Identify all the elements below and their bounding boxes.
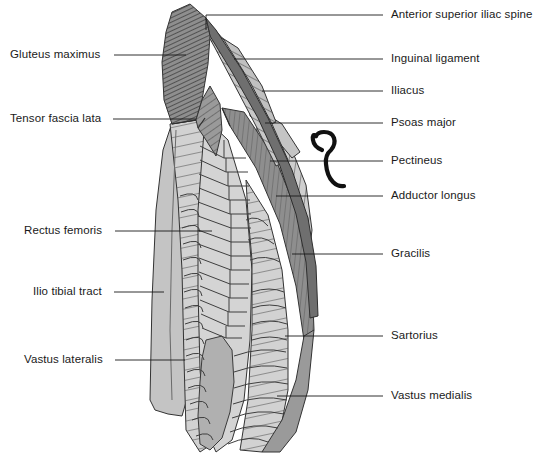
label-anterior-superior-iliac-spine: Anterior superior iliac spine	[391, 9, 533, 21]
label-vastus-lateralis: Vastus lateralis	[24, 354, 103, 366]
label-ilio-tibial-tract: Ilio tibial tract	[33, 286, 102, 298]
label-pectineus: Pectineus	[391, 155, 442, 167]
label-inguinal-ligament: Inguinal ligament	[391, 53, 480, 65]
label-sartorius: Sartorius	[391, 330, 438, 342]
label-psoas-major: Psoas major	[391, 117, 456, 129]
label-gluteus-maximus: Gluteus maximus	[10, 49, 100, 61]
label-iliacus: Iliacus	[391, 85, 424, 97]
label-gracilis: Gracilis	[391, 248, 430, 260]
anatomy-figure: Gluteus maximusTensor fascia lataRectus …	[0, 0, 533, 464]
pectineus-bracket	[313, 132, 344, 186]
label-vastus-medialis: Vastus medialis	[391, 390, 472, 402]
label-rectus-femoris: Rectus femoris	[24, 225, 102, 237]
label-adductor-longus: Adductor longus	[391, 190, 476, 202]
label-tensor-fascia-lata: Tensor fascia lata	[10, 113, 101, 125]
